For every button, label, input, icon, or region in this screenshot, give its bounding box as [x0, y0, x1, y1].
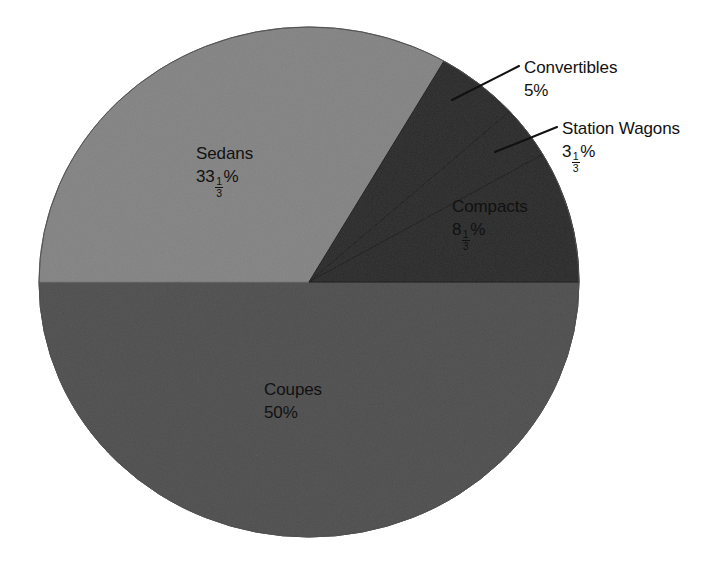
pie-label-compacts-whole: 8 [452, 220, 461, 239]
fraction-numerator: 1 [215, 176, 223, 187]
pie-label-station-wagons-whole: 3 [562, 142, 571, 161]
pie-label-coupes-whole: 50 [264, 403, 283, 422]
pie-label-compacts: Compacts 813% [452, 196, 528, 252]
fraction-denominator: 3 [462, 240, 470, 252]
fraction-denominator: 3 [215, 187, 223, 199]
pie-label-compacts-percent-sign: % [470, 220, 485, 239]
pie-label-sedans: Sedans 3313% [196, 143, 253, 199]
pie-label-station-wagons-percent-sign: % [580, 142, 595, 161]
pie-label-station-wagons-fraction: 13 [572, 151, 580, 174]
pie-label-sedans-name: Sedans [196, 143, 253, 165]
pie-label-compacts-fraction: 13 [462, 229, 470, 252]
pie-label-coupes-value: 50% [264, 402, 322, 424]
pie-label-sedans-value: 3313% [196, 166, 253, 199]
pie-label-coupes: Coupes 50% [264, 379, 322, 424]
pie-label-convertibles-value: 5% [524, 80, 617, 102]
pie-label-convertibles: Convertibles 5% [524, 57, 617, 102]
fraction-numerator: 1 [572, 151, 580, 162]
fraction-numerator: 1 [462, 229, 470, 240]
pie-label-compacts-value: 813% [452, 219, 528, 252]
pie-label-convertibles-whole: 5 [524, 81, 533, 100]
pie-label-station-wagons-value: 313% [562, 141, 680, 174]
pie-label-convertibles-percent-sign: % [533, 81, 548, 100]
pie-label-coupes-name: Coupes [264, 379, 322, 401]
pie-label-sedans-percent-sign: % [223, 167, 238, 186]
pie-slices-group [39, 27, 579, 537]
pie-label-sedans-whole: 33 [196, 167, 215, 186]
pie-label-station-wagons: Station Wagons 313% [562, 118, 680, 174]
pie-label-convertibles-name: Convertibles [524, 57, 617, 79]
pie-label-station-wagons-name: Station Wagons [562, 118, 680, 140]
pie-label-coupes-percent-sign: % [283, 403, 298, 422]
fraction-denominator: 3 [572, 162, 580, 174]
pie-label-sedans-fraction: 13 [215, 176, 223, 199]
pie-label-compacts-name: Compacts [452, 196, 528, 218]
pie-chart-figure: Sedans 3313% Coupes 50% Compacts 813% Co… [0, 0, 724, 566]
